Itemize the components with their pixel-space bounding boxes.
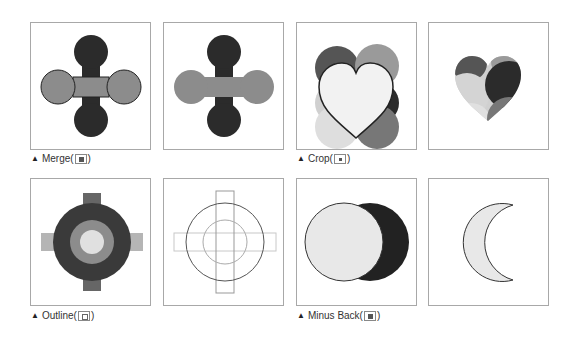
outline-caption: ▲ Outline( ) <box>31 310 94 321</box>
crop-before-illustration <box>297 23 416 149</box>
merge-before-illustration <box>31 23 150 149</box>
merge-after-illustration <box>164 23 283 149</box>
minus-back-after-panel <box>428 178 549 306</box>
close-paren: ) <box>91 310 94 321</box>
triangle-marker-icon: ▲ <box>31 311 39 320</box>
crop-before-panel <box>296 22 417 150</box>
close-paren: ) <box>377 310 380 321</box>
outline-after-illustration <box>164 179 283 305</box>
crop-caption: ▲ Crop( ) <box>297 153 350 164</box>
outline-caption-text: Outline( <box>42 310 77 321</box>
triangle-marker-icon: ▲ <box>297 311 305 320</box>
merge-after-panel <box>163 22 284 150</box>
merge-caption: ▲ Merge( ) <box>31 153 91 164</box>
outline-before-panel <box>30 178 151 306</box>
crop-icon <box>334 154 346 164</box>
crop-caption-text: Crop( <box>308 153 333 164</box>
triangle-marker-icon: ▲ <box>297 154 305 163</box>
minus-back-caption: ▲ Minus Back( ) <box>297 310 380 321</box>
triangle-marker-icon: ▲ <box>31 154 39 163</box>
outline-after-panel <box>163 178 284 306</box>
minus-back-icon <box>364 311 376 321</box>
outline-before-illustration <box>31 179 150 305</box>
outline-icon <box>78 311 90 321</box>
crop-after-panel <box>428 22 549 150</box>
merge-caption-text: Merge( <box>42 153 74 164</box>
merge-icon <box>75 154 87 164</box>
minus-back-before-panel <box>296 178 417 306</box>
crop-after-illustration <box>429 23 548 149</box>
close-paren: ) <box>88 153 91 164</box>
merge-before-panel <box>30 22 151 150</box>
minus-back-before-illustration <box>297 179 416 305</box>
minus-back-after-illustration <box>429 179 548 305</box>
minus-back-caption-text: Minus Back( <box>308 310 363 321</box>
close-paren: ) <box>347 153 350 164</box>
